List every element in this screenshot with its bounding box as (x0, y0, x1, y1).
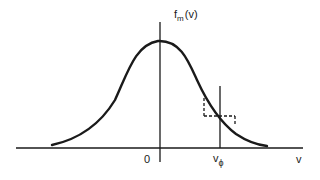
distribution-diagram: fm(v) 0 vϕ v (0, 0, 320, 180)
phase-velocity-label: vϕ (213, 152, 224, 168)
x-axis-label: v (296, 153, 302, 165)
y-axis-label: fm(v) (174, 8, 198, 23)
origin-label: 0 (144, 153, 150, 165)
